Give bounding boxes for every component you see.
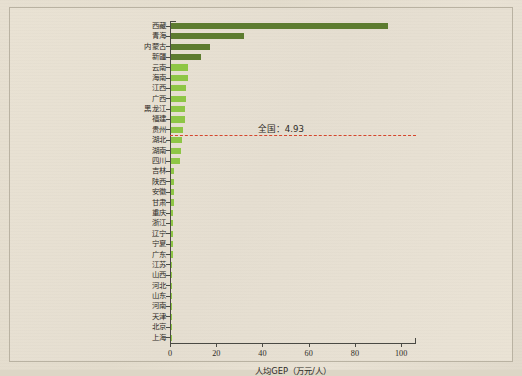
y-axis-tick [166, 161, 170, 162]
y-axis-label: 河南 [118, 301, 166, 311]
y-axis-tick [166, 109, 170, 110]
bar [171, 127, 183, 133]
x-axis-title: 人均GEP（万元/人） [255, 364, 331, 376]
bar [171, 96, 186, 102]
y-axis-label: 贵州 [118, 125, 166, 135]
bar-row [170, 73, 415, 83]
bar-row [170, 229, 415, 239]
y-axis-tick [166, 316, 170, 317]
y-axis-tick [166, 223, 170, 224]
bar [171, 251, 173, 257]
bar-row [170, 208, 415, 218]
x-axis-tick-label: 40 [258, 349, 266, 358]
y-axis-label: 辽宁 [118, 229, 166, 239]
y-axis-label: 广东 [118, 250, 166, 260]
x-axis-tick-label: 80 [351, 349, 359, 358]
y-axis-label: 山东 [118, 291, 166, 301]
bar-row [170, 281, 415, 291]
bar [171, 64, 188, 70]
bar-row [170, 52, 415, 62]
y-axis-tick [166, 306, 170, 307]
y-axis-tick [166, 285, 170, 286]
bar-row [170, 250, 415, 260]
y-axis-label: 福建 [118, 114, 166, 124]
bar [171, 293, 172, 299]
bar-row [170, 187, 415, 197]
bar [171, 33, 244, 39]
bar [171, 231, 173, 237]
bar-row [170, 312, 415, 322]
y-axis-label: 湖南 [118, 146, 166, 156]
bar [171, 75, 188, 81]
bar [171, 189, 174, 195]
y-axis-tick [166, 150, 170, 151]
x-axis-tick [216, 343, 217, 347]
bar-row [170, 198, 415, 208]
bar [171, 283, 172, 289]
bar [171, 116, 185, 122]
plot-area: 西藏青海内蒙古新疆云南海南江西广西黑龙江福建贵州湖北湖南四川吉林陕西安徽甘肃重庆… [170, 21, 415, 343]
y-axis-tick [166, 26, 170, 27]
bar-row [170, 146, 415, 156]
y-axis-label: 陕西 [118, 177, 166, 187]
bar-row [170, 83, 415, 93]
y-axis-label: 北京 [118, 322, 166, 332]
y-axis-label: 云南 [118, 63, 166, 73]
bar-row [170, 270, 415, 280]
national-average-label: 全国：4.93 [258, 122, 304, 134]
bar-row [170, 135, 415, 145]
y-axis-label: 黑龙江 [118, 104, 166, 114]
bar-row [170, 104, 415, 114]
y-axis-label: 江苏 [118, 260, 166, 270]
y-axis-tick [166, 264, 170, 265]
bar-row [170, 94, 415, 104]
y-axis-tick [166, 67, 170, 68]
bar [171, 262, 172, 268]
x-axis-spine [170, 343, 416, 344]
bar-row [170, 166, 415, 176]
y-axis-label: 青海 [118, 31, 166, 41]
y-axis-label: 西藏 [118, 21, 166, 31]
y-axis-tick [166, 140, 170, 141]
y-axis-tick [166, 98, 170, 99]
y-axis-tick [166, 254, 170, 255]
bar-row [170, 31, 415, 41]
y-axis-label: 湖北 [118, 135, 166, 145]
y-axis-tick [166, 36, 170, 37]
y-axis-label: 甘肃 [118, 198, 166, 208]
x-axis-tick [262, 343, 263, 347]
bar [171, 272, 172, 278]
y-axis-tick [166, 213, 170, 214]
y-axis-tick [166, 233, 170, 234]
x-axis-tick-label: 20 [212, 349, 220, 358]
bar-row [170, 177, 415, 187]
y-axis-label: 浙江 [118, 218, 166, 228]
bar [171, 158, 180, 164]
bar [171, 54, 201, 60]
bar [171, 137, 182, 143]
y-axis-label: 上海 [118, 333, 166, 343]
x-axis-cap [415, 338, 416, 344]
bar [171, 324, 172, 330]
y-axis-tick [166, 202, 170, 203]
y-axis-label: 内蒙古 [118, 42, 166, 52]
y-axis-label: 吉林 [118, 166, 166, 176]
bar [171, 44, 210, 50]
y-axis-tick [166, 171, 170, 172]
bar [171, 199, 174, 205]
y-axis-label: 四川 [118, 156, 166, 166]
y-axis-tick [166, 192, 170, 193]
y-axis-tick [166, 78, 170, 79]
national-average-line [170, 135, 416, 136]
bar [171, 85, 186, 91]
bar [171, 303, 172, 309]
bar [171, 220, 173, 226]
bar [171, 168, 174, 174]
bar-row [170, 301, 415, 311]
y-axis-label: 天津 [118, 312, 166, 322]
bar [171, 179, 174, 185]
y-axis-label: 新疆 [118, 52, 166, 62]
bar-row [170, 218, 415, 228]
bar [171, 106, 185, 112]
